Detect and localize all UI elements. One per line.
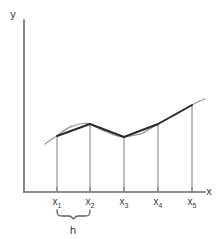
x-axis-label: x: [206, 185, 212, 197]
tick-label-x3: x3: [120, 196, 129, 209]
chord-polyline: [57, 105, 192, 137]
ordinate-lines: [57, 105, 192, 192]
x-tick-labels: x1 x2 x3 x4 x5: [53, 196, 197, 209]
step-width-label: h: [70, 224, 76, 236]
y-axis-label: y: [10, 8, 16, 20]
trapezoidal-rule-diagram: y x x1 x2: [0, 0, 218, 239]
tick-label-x4: x4: [154, 196, 163, 209]
figure-canvas: y x x1 x2: [0, 0, 218, 239]
tick-label-x5: x5: [188, 196, 197, 209]
tick-label-x2: x2: [86, 196, 95, 209]
tick-label-x1: x1: [53, 196, 62, 209]
step-width-brace: [57, 210, 90, 219]
